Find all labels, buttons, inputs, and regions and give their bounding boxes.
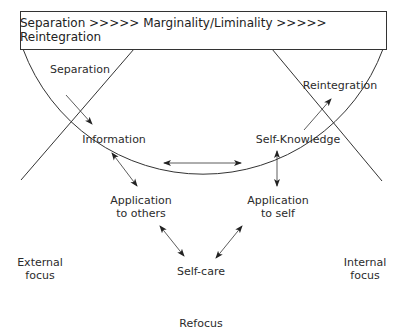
arrow-application-self-selfcare bbox=[216, 226, 242, 258]
arrow-application-others-selfcare bbox=[160, 226, 184, 256]
label-self-knowledge: Self-Knowledge bbox=[253, 133, 343, 147]
diagram-canvas bbox=[0, 0, 402, 335]
label-internal-line2: focus bbox=[335, 269, 395, 283]
label-self-care: Self-care bbox=[166, 265, 236, 279]
label-application-to-self-line1: Application bbox=[243, 194, 313, 208]
label-application-to-others-line1: Application bbox=[106, 194, 176, 208]
label-information: Information bbox=[79, 133, 149, 147]
label-internal-line1: Internal bbox=[335, 256, 395, 270]
label-application-to-others-line2: to others bbox=[106, 207, 176, 221]
label-refocus: Refocus bbox=[171, 317, 231, 331]
label-external-line2: focus bbox=[10, 269, 70, 283]
arrow-separation-to-information bbox=[66, 95, 92, 124]
label-external-line1: External bbox=[10, 256, 70, 270]
label-reintegration-inner: Reintegration bbox=[300, 79, 380, 93]
label-application-to-self-line2: to self bbox=[243, 207, 313, 221]
label-separation-inner: Separation bbox=[45, 63, 115, 77]
right-divider bbox=[272, 49, 382, 181]
stages-header: Separation >>>>> Marginality/Liminality … bbox=[20, 11, 386, 49]
